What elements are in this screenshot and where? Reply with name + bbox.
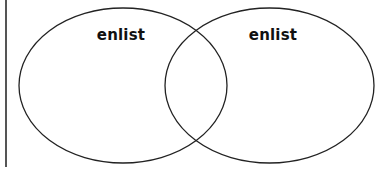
venn-diagram: enlist enlist <box>0 0 392 170</box>
venn-shapes <box>0 0 392 170</box>
left-set-label: enlist <box>91 27 151 43</box>
right-set-label: enlist <box>243 27 303 43</box>
